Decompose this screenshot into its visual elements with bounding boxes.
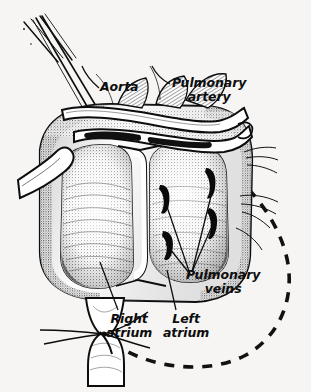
heart-illustration [0, 0, 311, 392]
label-aorta: Aorta [100, 80, 138, 94]
label-pulmonary-artery: Pulmonary artery [172, 76, 246, 104]
label-left-atrium: Left atrium [163, 312, 209, 340]
label-right-atrium: Right atrium [106, 312, 152, 340]
label-pulmonary-veins: Pulmonary veins [186, 268, 260, 296]
anatomy-figure: Aorta Pulmonary artery Pulmonary veins R… [0, 0, 311, 392]
